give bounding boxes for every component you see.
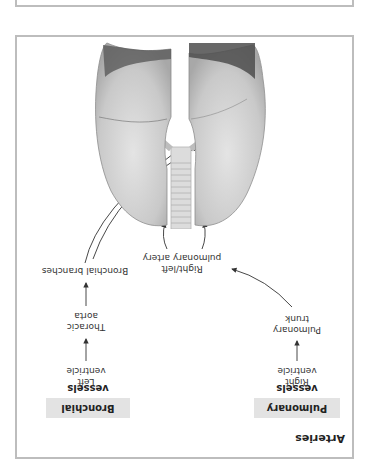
lungs-illustration [57,39,307,229]
figure-canvas: Arteries Pulmonary vessels Bronchial ves… [0,0,367,469]
